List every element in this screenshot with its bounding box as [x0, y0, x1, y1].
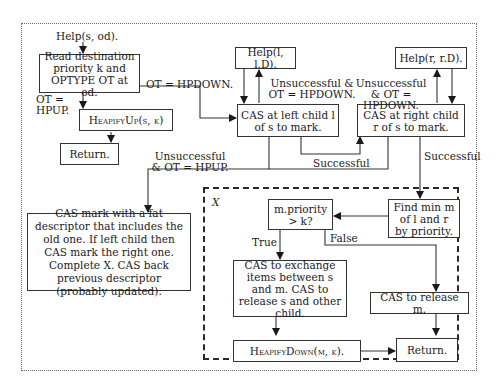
edge-label-ot-hpdown: OT = HPDOWN. — [146, 78, 233, 90]
node-cas-release-m: CAS to release m. — [370, 292, 469, 314]
node-fat-descriptor: CAS mark with a fat descriptor that incl… — [27, 213, 191, 291]
node-read-destination: Read destination priority k and OPTYPE O… — [39, 54, 140, 93]
node-return-bottom: Return. — [396, 338, 458, 362]
node-cas-exchange: CAS to exchange items between s and m. C… — [233, 260, 347, 317]
node-help-right: Help(r, r.D). — [395, 47, 467, 69]
edge-label-ot-hpup: OT = HPUP. — [36, 94, 76, 116]
node-cas-left-child: CAS at left child l of s to mark. — [237, 104, 339, 137]
node-find-min: Find min m of l and r by priority. — [388, 199, 460, 238]
node-priority-check: m.priority > k? — [268, 199, 333, 230]
node-help-left: Help(l, l.D). — [235, 47, 296, 69]
edge-label-successful-left: Successful — [313, 157, 370, 169]
region-x-label: X — [212, 196, 219, 208]
edge-label-unsuccessful-right: Unsuccessful & OT = HPDOWN. — [350, 78, 432, 111]
edge-label-true: True — [252, 236, 277, 248]
node-heapify-up: HeapifyUp(s, k) — [79, 109, 173, 131]
edge-label-successful-right: Successful — [424, 150, 481, 162]
entry-label: Help(s, od). — [56, 30, 118, 42]
node-heapify-down: HeapifyDown(m, k). — [233, 340, 361, 362]
edge-label-unsuccessful-left: Unsuccessful & OT = HPDOWN. — [262, 78, 362, 100]
edge-label-false: False — [330, 232, 358, 244]
node-return-top: Return. — [60, 143, 119, 165]
edge-label-unsuccessful-hpup: Unsuccessful & OT = HPUP. — [150, 151, 230, 173]
